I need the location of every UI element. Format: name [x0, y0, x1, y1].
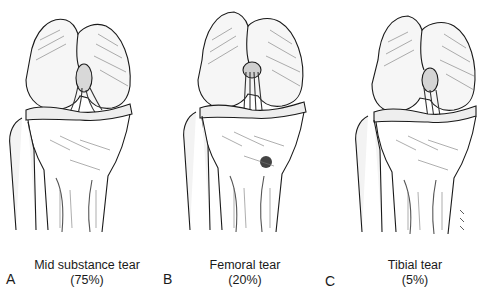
panel-b-femoral-tear: B Femoral tear (20%) — [160, 0, 320, 291]
knee-illustration-mid-substance-tear — [0, 0, 160, 240]
caption-percent: (20%) — [195, 273, 295, 288]
panel-letter: C — [325, 273, 335, 289]
panel-caption: Femoral tear (20%) — [195, 258, 295, 288]
panel-a-mid-substance-tear: A Mid substance tear (75%) — [0, 0, 160, 291]
artist-signature — [460, 210, 464, 230]
knee-illustration-tibial-tear — [320, 0, 479, 240]
caption-percent: (75%) — [22, 273, 152, 288]
panel-letter: B — [163, 271, 172, 287]
caption-percent: (5%) — [370, 273, 460, 288]
panel-caption: Mid substance tear (75%) — [22, 258, 152, 288]
panel-caption: Tibial tear (5%) — [370, 258, 460, 288]
caption-title: Tibial tear — [370, 258, 460, 273]
panel-c-tibial-tear: C Tibial tear (5%) — [320, 0, 479, 291]
knee-illustration-femoral-tear — [160, 0, 320, 240]
caption-title: Mid substance tear — [22, 258, 152, 273]
caption-title: Femoral tear — [195, 258, 295, 273]
panel-letter: A — [6, 271, 15, 287]
